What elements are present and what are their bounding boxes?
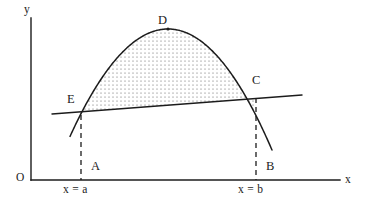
bound-label-x-equals-a: x = a — [63, 184, 88, 196]
vertex-marker-dot — [166, 27, 169, 30]
bound-label-x-equals-b: x = b — [238, 184, 263, 196]
point-label-a: A — [91, 160, 100, 173]
diagram-canvas — [0, 0, 370, 214]
origin-label: O — [16, 172, 24, 184]
y-axis-label: y — [24, 4, 30, 16]
point-label-c: C — [252, 74, 260, 87]
figure-container: y x O D C E A B x = a x = b — [0, 0, 370, 214]
point-label-d: D — [158, 14, 167, 27]
point-label-e: E — [67, 93, 75, 106]
point-label-b: B — [266, 160, 274, 173]
x-axis-label: x — [345, 174, 351, 186]
